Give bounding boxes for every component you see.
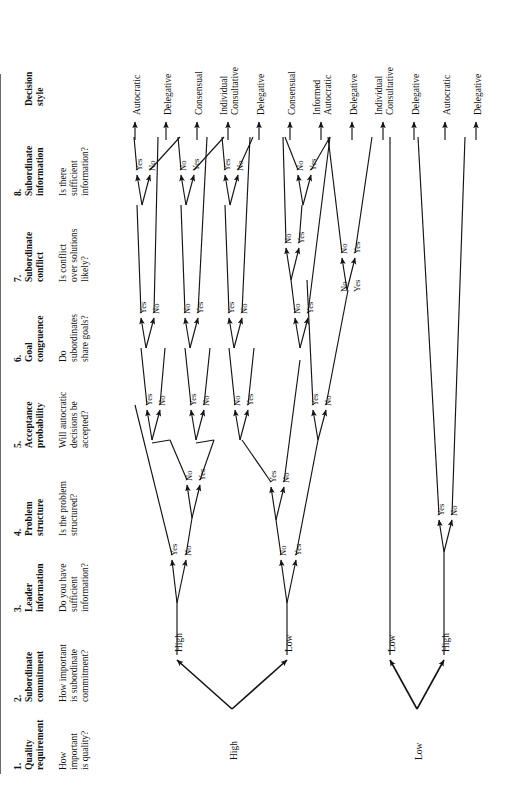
branch-label-l7a-no: No — [283, 234, 293, 244]
branch-label-l3b-no: No — [278, 546, 288, 556]
outcome-label-8: IndividualConsultative — [374, 67, 395, 115]
commitment-label-4: High — [441, 633, 451, 652]
commitment-label-2: Low — [284, 635, 294, 652]
branch-label-l8b-no: No — [178, 161, 188, 171]
outcome-label-9: Delegative — [411, 74, 422, 115]
outcome-label-2: Consensual — [194, 71, 205, 115]
branch-label-l5a-no: No — [157, 396, 167, 406]
branch-label-l6a-yes: Yes — [138, 302, 148, 314]
branch-label-l3b-yes: Yes — [293, 544, 303, 556]
branch-label-l5c-no: No — [232, 396, 242, 406]
branch-label-l5b-no: No — [201, 396, 211, 406]
branch-label-l6b-no: No — [182, 304, 192, 314]
outcome-label-3: IndividualConsultative — [219, 67, 240, 115]
text-line: Individual — [374, 67, 385, 115]
text-line: Consultative — [230, 67, 241, 115]
outcome-label-6: InformedAutocratic — [312, 75, 333, 115]
branch-label-l6d-no: No — [292, 304, 302, 314]
branch-label-right-no: No — [449, 506, 459, 516]
branch-label-l3a-no: No — [183, 546, 193, 556]
branch-label-l5c-yes: Yes — [245, 394, 255, 406]
branch-label-l8e-yes: Yes — [352, 242, 362, 254]
branch-label-l4b-no: No — [281, 473, 291, 483]
outcome-label-10: Autocratic — [442, 75, 453, 115]
text-line: Consultative — [385, 67, 396, 115]
branch-label-l8a-yes: Yes — [134, 159, 144, 171]
text-line: Individual — [219, 67, 230, 115]
branch-label-l8d-yes: Yes — [308, 159, 318, 171]
text-line: Autocratic — [323, 75, 334, 115]
branch-label-l8a-no: No — [147, 161, 157, 171]
outcome-label-4: Delegative — [256, 74, 267, 115]
branch-label-l7a-yes: Yes — [296, 232, 306, 244]
outcome-label-5: Consensual — [287, 71, 298, 115]
decision-tree-graphic — [0, 0, 519, 790]
diagram-canvas: 1. Qualityrequirement Howimportantis qua… — [0, 0, 519, 790]
branch-label-l6e-yes: Yes — [352, 280, 362, 292]
branch-label-l6c-no: No — [239, 304, 249, 314]
branch-label-l4a-yes: Yes — [197, 469, 207, 481]
outcome-label-0: Autocratic — [132, 75, 143, 115]
branch-label-l4a-no: No — [184, 471, 194, 481]
branch-label-l6a-no: No — [151, 304, 161, 314]
commitment-label-1: High — [174, 633, 184, 652]
outcome-label-7: Delegative — [349, 74, 360, 115]
branch-label-l8e-no: No — [339, 244, 349, 254]
branch-label-l5b-yes: Yes — [188, 394, 198, 406]
root-label-right: Low — [414, 743, 424, 760]
text-line: Informed — [312, 75, 323, 115]
commitment-label-3: Low — [387, 635, 397, 652]
branch-label-l8c-no: No — [235, 161, 245, 171]
branch-label-l8b-yes: Yes — [191, 159, 201, 171]
branch-label-l6b-yes: Yes — [195, 302, 205, 314]
branch-label-l8c-yes: Yes — [222, 159, 232, 171]
branch-label-l3a-yes: Yes — [169, 544, 179, 556]
branch-label-l6c-yes: Yes — [226, 302, 236, 314]
branch-label-right-yes: Yes — [436, 504, 446, 516]
branch-label-l8d-no: No — [295, 161, 305, 171]
branch-label-l6d-yes: Yes — [305, 302, 315, 314]
branch-label-l5d-no: No — [323, 396, 333, 406]
branch-label-l4b-yes: Yes — [268, 471, 278, 483]
branch-label-l6e-no: No — [339, 282, 349, 292]
branch-label-l5d-yes: Yes — [310, 394, 320, 406]
root-label-left: High — [229, 741, 239, 760]
outcome-label-1: Delegative — [163, 74, 174, 115]
outcome-label-11: Delegative — [473, 74, 484, 115]
branch-label-l5a-yes: Yes — [144, 394, 154, 406]
